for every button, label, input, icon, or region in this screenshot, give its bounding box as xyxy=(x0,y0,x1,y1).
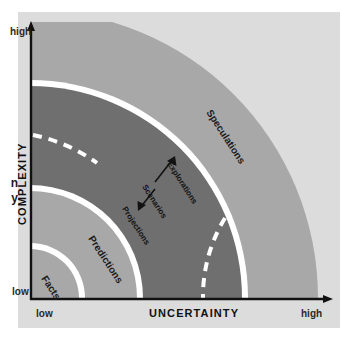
x-axis-high-label: high xyxy=(301,308,322,319)
y-axis-high-label: high xyxy=(10,26,31,37)
x-axis-arrowhead xyxy=(323,295,333,303)
figure-container: n y xyxy=(0,0,356,342)
y-axis-title: COMPLEXITY xyxy=(16,142,28,225)
y-axis-low-label: low xyxy=(12,286,29,297)
x-axis-low-label: low xyxy=(36,308,53,319)
x-axis-title: UNCERTAINTY xyxy=(149,307,239,319)
